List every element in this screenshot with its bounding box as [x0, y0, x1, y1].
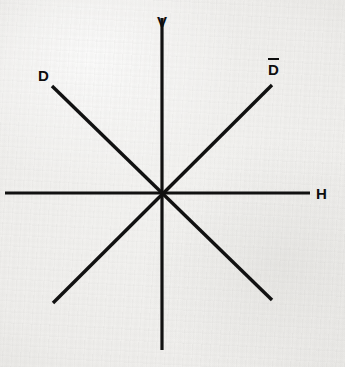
diagonal-axis-label: D	[38, 68, 49, 83]
antidiagonal-label-overbar-text: D	[268, 62, 279, 77]
horizontal-axis-label: H	[316, 186, 327, 201]
antidiagonal-axis-label: D	[268, 62, 279, 77]
vertical-axis-label: V	[157, 14, 167, 29]
polarization-axes-figure: V H D D	[0, 0, 345, 367]
axes-group	[0, 0, 345, 367]
